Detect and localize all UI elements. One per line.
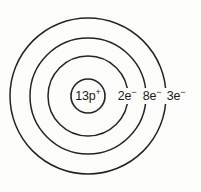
bohr-model-diagram: 13p+ 2e− 8e− 3e−: [0, 0, 201, 192]
nucleus-proton-count: 13: [75, 89, 89, 103]
shell-3-charge-sign: −: [180, 87, 185, 97]
shell-2-charge-sign: −: [156, 87, 161, 97]
shell-1-charge-sign: −: [131, 87, 136, 97]
bohr-model-canvas: 13p+ 2e− 8e− 3e−: [0, 0, 201, 192]
nucleus-charge-sign: +: [96, 87, 101, 97]
